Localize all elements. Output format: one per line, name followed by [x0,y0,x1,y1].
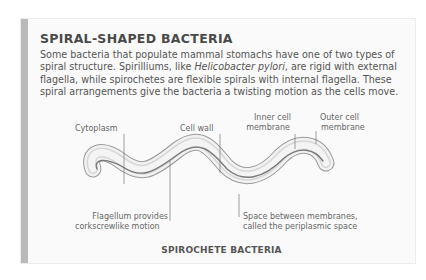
label-inner-membrane: Inner cell membrane [245,113,291,133]
label-cytoplasm: Cytoplasm [75,124,118,134]
label-periplasmic-space: Space between membranes, called the peri… [243,212,358,232]
label-cell-wall: Cell wall [180,124,213,134]
info-panel: SPIRAL-SHAPED BACTERIA Some bacteria tha… [20,18,416,264]
label-outer-membrane: Outer cell membrane [320,113,365,133]
diagram-caption: SPIROCHETE BACTERIA [21,245,415,255]
label-flagellum: Flagellum provides corkscrewlike motion [75,212,168,232]
